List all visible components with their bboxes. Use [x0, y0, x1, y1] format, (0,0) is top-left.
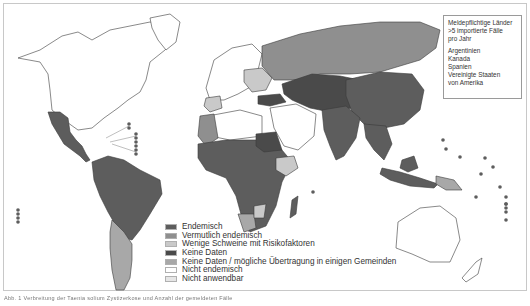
- legend-swatch: [165, 233, 177, 239]
- infobox-title-line-3: pro Jahr: [448, 35, 517, 43]
- infobox-title-line-1: Meldepflichtige Länder: [448, 19, 517, 27]
- legend-label: Nicht anwendbar: [182, 275, 243, 283]
- region-papua: [436, 176, 462, 190]
- region-russia: [262, 22, 440, 80]
- legend-label: Keine Daten: [182, 249, 227, 257]
- infobox-country: Kanada: [448, 55, 517, 63]
- legend-swatch: [165, 241, 177, 247]
- legend-swatch: [165, 250, 177, 256]
- region-turkey: [258, 94, 286, 106]
- legend-swatch: [165, 267, 177, 273]
- region-north-america: [18, 22, 175, 130]
- region-madagascar: [290, 196, 298, 218]
- infobox-country: Argentinien: [448, 47, 517, 55]
- region-borneo: [400, 156, 418, 172]
- region-southeast-asia: [364, 124, 392, 160]
- legend-swatch: [165, 276, 177, 282]
- map-legend: Endemisch Vermutlich endemisch Wenige Sc…: [165, 223, 396, 283]
- region-south-asia: [322, 106, 360, 160]
- infobox-title-line-2: >5 importierte Fälle: [448, 27, 517, 35]
- legend-item-not-applicable: Nicht anwendbar: [165, 275, 396, 284]
- region-botswana: [254, 204, 266, 218]
- figure-caption: Abb. 1 Verbreitung der Taenia solium Zys…: [4, 295, 233, 301]
- region-australia: [396, 206, 460, 262]
- legend-swatch: [165, 224, 177, 230]
- region-new-zealand: [462, 258, 482, 282]
- infobox-country: Vereinigte Staaten: [448, 71, 517, 79]
- infobox-country: Spanien: [448, 63, 517, 71]
- region-iberia: [204, 96, 222, 112]
- legend-swatch: [165, 259, 177, 265]
- notifiable-countries-box: Meldepflichtige Länder >5 importierte Fä…: [443, 15, 522, 99]
- infobox-country: von Amerika: [448, 79, 517, 87]
- region-south-america: [92, 156, 162, 240]
- region-west-africa-nw: [198, 114, 218, 146]
